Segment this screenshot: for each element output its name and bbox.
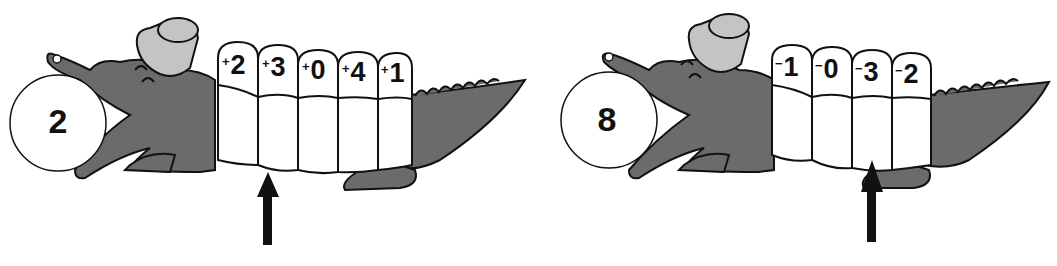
segment-label: −2 xyxy=(895,59,919,90)
start-number: 8 xyxy=(577,100,637,139)
segment-label: +3 xyxy=(262,52,286,83)
segment-label: +2 xyxy=(222,50,246,81)
crocodile-puzzle-1: 2 +2 +3 +0 +4 +1 xyxy=(0,0,528,266)
segment-label: −0 xyxy=(815,54,839,85)
segment-label: +0 xyxy=(302,55,326,86)
segment-label: −1 xyxy=(775,52,799,83)
segment-label: −3 xyxy=(855,57,879,88)
start-number: 2 xyxy=(28,102,88,141)
segment-label: +4 xyxy=(342,57,366,88)
crocodile-puzzle-2: 8 −1 −0 −3 −2 xyxy=(529,0,1057,266)
segment-label: +1 xyxy=(381,58,405,89)
